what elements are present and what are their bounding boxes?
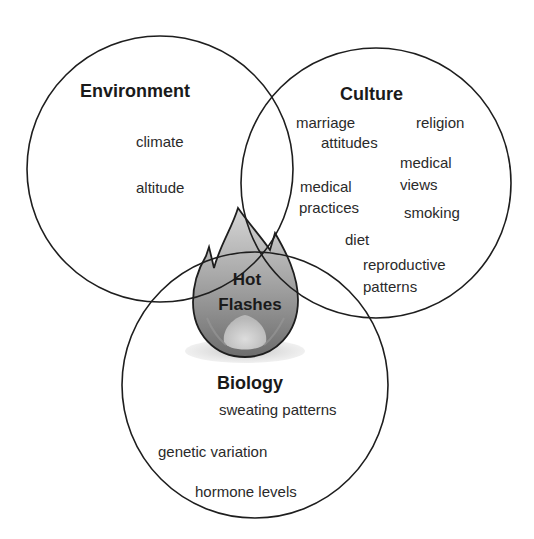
biology-title: Biology [217,373,283,393]
culture-item-medical-practices-2: practices [299,199,359,216]
culture-item-smoking: smoking [404,204,460,221]
biology-item-sweating-patterns: sweating patterns [219,401,337,418]
culture-item-diet: diet [345,231,370,248]
culture-title: Culture [340,84,403,104]
biology-item-genetic-variation: genetic variation [158,443,267,460]
culture-item-attitudes: attitudes [321,134,378,151]
culture-item-medical-views-2: views [400,176,438,193]
venn-diagram: Environment climate altitude Culture mar… [0,0,534,539]
culture-item-medical-practices-1: medical [300,178,352,195]
environment-item-climate: climate [136,133,184,150]
center-label-flashes: Flashes [218,295,281,314]
biology-item-hormone-levels: hormone levels [195,483,297,500]
culture-item-patterns: patterns [363,278,417,295]
environment-title: Environment [80,81,190,101]
center-label-hot: Hot [233,270,262,289]
culture-item-religion: religion [416,114,464,131]
environment-item-altitude: altitude [136,179,184,196]
culture-item-marriage: marriage [296,114,355,131]
culture-item-medical-views-1: medical [400,154,452,171]
culture-item-reproductive: reproductive [363,256,446,273]
